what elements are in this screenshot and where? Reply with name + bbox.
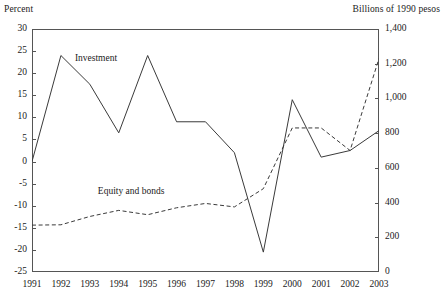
left-tick-label: 15 xyxy=(0,90,27,100)
left-axis-unit-label: Percent xyxy=(4,4,33,14)
right-tick-label: 600 xyxy=(385,163,399,173)
annotation-equity-and-bonds: Equity and bonds xyxy=(98,187,165,197)
right-tick-mark xyxy=(375,203,378,204)
left-tick-mark xyxy=(33,73,36,74)
left-tick-label: -20 xyxy=(0,245,27,255)
annotation-investment: Investment xyxy=(75,54,117,64)
right-tick-label: 1,400 xyxy=(385,24,406,34)
left-tick-mark xyxy=(33,228,36,229)
plot-area xyxy=(32,29,379,272)
left-tick-label: -25 xyxy=(0,267,27,277)
right-tick-label: 1,000 xyxy=(385,93,406,103)
chart-container: Percent Billions of 1990 pesos 302520151… xyxy=(0,0,443,301)
left-tick-mark xyxy=(33,162,36,163)
left-tick-mark xyxy=(33,51,36,52)
left-tick-label: 0 xyxy=(0,157,27,167)
right-tick-label: 200 xyxy=(385,232,399,242)
right-tick-mark xyxy=(375,98,378,99)
left-tick-label: -5 xyxy=(0,179,27,189)
right-tick-label: 0 xyxy=(385,267,390,277)
left-tick-label: 20 xyxy=(0,68,27,78)
left-tick-label: 10 xyxy=(0,112,27,122)
left-tick-mark xyxy=(33,139,36,140)
right-tick-mark xyxy=(375,168,378,169)
left-tick-mark xyxy=(33,117,36,118)
left-tick-mark xyxy=(33,184,36,185)
right-tick-label: 1,200 xyxy=(385,59,406,69)
left-tick-mark xyxy=(33,95,36,96)
left-tick-label: 5 xyxy=(0,134,27,144)
left-tick-label: -15 xyxy=(0,223,27,233)
right-tick-mark xyxy=(375,64,378,65)
x-tick-label: 2003 xyxy=(361,280,397,290)
right-tick-label: 400 xyxy=(385,198,399,208)
series-line-investment xyxy=(32,56,379,253)
left-tick-mark xyxy=(33,250,36,251)
right-axis-unit-label: Billions of 1990 pesos xyxy=(353,4,440,14)
right-tick-mark xyxy=(375,237,378,238)
left-tick-mark xyxy=(33,206,36,207)
left-tick-label: 30 xyxy=(0,24,27,34)
left-tick-label: -10 xyxy=(0,201,27,211)
right-tick-mark xyxy=(375,133,378,134)
right-tick-label: 800 xyxy=(385,128,399,138)
left-tick-label: 25 xyxy=(0,46,27,56)
series-line-equity-and-bonds xyxy=(32,59,379,226)
